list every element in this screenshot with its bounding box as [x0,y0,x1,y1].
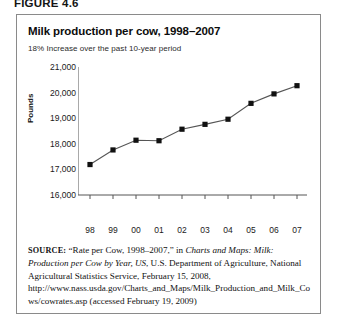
x-axis-tick-label: 02 [177,225,186,235]
x-axis-tick-label: 00 [131,225,140,235]
x-axis-tick-label: 01 [154,225,163,235]
x-axis-tick-label: 99 [108,225,117,235]
y-axis-tick-labels: 21,00020,00019,00018,00017,00016,000 [36,63,76,238]
chart-subtitle: 18% Increase over the past 10-year perio… [28,44,181,53]
y-axis-title: Pounds [26,94,35,123]
x-axis-tick-label: 07 [292,225,301,235]
chart-plot-area: Pounds 21,00020,00019,00018,00017,00016,… [28,63,311,238]
line-chart-svg [78,63,311,223]
data-point-marker [271,91,276,96]
x-axis-tick-labels: 98990001020304050607 [78,225,311,241]
data-point-marker [179,127,184,132]
y-axis-tick-label: 21,000 [50,62,76,72]
y-axis-tick-label: 16,000 [50,190,76,200]
y-axis-tick-label: 18,000 [50,139,76,149]
source-citation: SOURCE: “Rate per Cow, 1998–2007,” in Ch… [28,244,311,307]
x-axis-tick-label: 03 [200,225,209,235]
y-axis-tick-label: 17,000 [50,164,76,174]
x-axis-tick-label: 05 [246,225,255,235]
data-point-marker [248,101,253,106]
data-point-marker [225,117,230,122]
x-axis-tick-label: 98 [85,225,94,235]
data-point-marker [156,138,161,143]
data-point-marker [133,138,138,143]
source-label: SOURCE: [28,246,66,255]
figure-box: Milk production per cow, 1998–2007 18% I… [16,14,321,314]
x-axis-tick-label: 06 [269,225,278,235]
data-point-marker [294,83,299,88]
chart-title: Milk production per cow, 1998–2007 [28,25,220,37]
y-axis-tick-label: 20,000 [50,88,76,98]
figure-number-label: FIGURE 4.6 [14,0,79,9]
y-axis-tick-label: 19,000 [50,113,76,123]
data-point-marker [202,122,207,127]
x-axis-tick-label: 04 [223,225,232,235]
data-point-marker [110,147,115,152]
source-text-part1: “Rate per Cow, 1998–2007,” in [66,245,185,255]
data-point-marker [87,162,92,167]
